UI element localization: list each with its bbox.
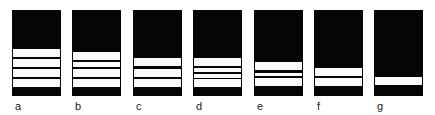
panel-e: [254, 10, 303, 96]
white-band: [315, 68, 362, 76]
white-band: [255, 62, 302, 70]
panel-c: [133, 10, 182, 96]
panel-label: b: [75, 100, 81, 112]
white-band: [73, 79, 120, 87]
white-band: [375, 77, 422, 85]
white-band: [134, 58, 181, 66]
white-band: [194, 74, 241, 78]
white-band: [13, 69, 60, 77]
panel-f: [314, 10, 363, 96]
panel-b: [72, 10, 121, 96]
panel-label: f: [317, 100, 320, 112]
white-band: [73, 62, 120, 67]
white-band: [255, 78, 302, 86]
white-band: [73, 52, 120, 60]
white-band: [13, 59, 60, 67]
white-band: [194, 79, 241, 87]
white-band: [255, 73, 302, 76]
white-band: [73, 69, 120, 77]
panel-label: c: [136, 100, 142, 112]
panel-label: e: [257, 100, 263, 112]
panel-a: [12, 10, 61, 96]
panel-label: a: [15, 100, 21, 112]
panel-d: [193, 10, 242, 96]
panel-g: [374, 10, 423, 96]
white-band: [134, 79, 181, 87]
white-band: [315, 78, 362, 86]
white-band: [13, 49, 60, 57]
white-band: [194, 68, 241, 72]
panel-label: d: [196, 100, 202, 112]
panel-label: g: [377, 100, 383, 112]
white-band: [134, 69, 181, 77]
white-band: [13, 79, 60, 87]
white-band: [194, 58, 241, 66]
